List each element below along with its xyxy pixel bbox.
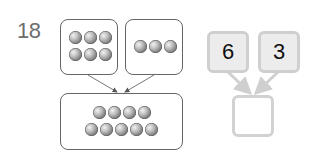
- ball-icon: [108, 106, 121, 119]
- ball-icon: [123, 106, 136, 119]
- ball-row: [69, 31, 112, 44]
- ball-icon: [130, 123, 143, 136]
- ball-icon: [134, 40, 147, 53]
- ball-icon: [69, 48, 82, 61]
- ball-icon: [84, 31, 97, 44]
- top-left-group-box: [60, 19, 118, 75]
- ball-icon: [164, 40, 177, 53]
- ball-icon: [69, 31, 82, 44]
- ball-icon: [84, 48, 97, 61]
- ball-icon: [85, 123, 98, 136]
- ball-icon: [99, 48, 112, 61]
- number-box-left: 6: [207, 31, 249, 73]
- answer-box[interactable]: [232, 95, 274, 137]
- number-box-right: 3: [258, 31, 300, 73]
- ball-icon: [149, 40, 162, 53]
- ball-row: [93, 106, 151, 119]
- ball-row: [69, 48, 112, 61]
- arrow-right-to-bottom: [125, 75, 154, 92]
- arrow-three-to-answer: [256, 72, 278, 93]
- arrow-six-to-answer: [228, 72, 250, 93]
- ball-row: [85, 123, 158, 136]
- top-right-group-box: [125, 19, 183, 75]
- ball-icon: [93, 106, 106, 119]
- ball-icon: [99, 31, 112, 44]
- arrow-left-to-bottom: [88, 75, 117, 92]
- ball-icon: [100, 123, 113, 136]
- ball-icon: [138, 106, 151, 119]
- ball-icon: [145, 123, 158, 136]
- ball-row: [134, 40, 177, 53]
- bottom-total-box: [60, 93, 183, 150]
- ball-icon: [115, 123, 128, 136]
